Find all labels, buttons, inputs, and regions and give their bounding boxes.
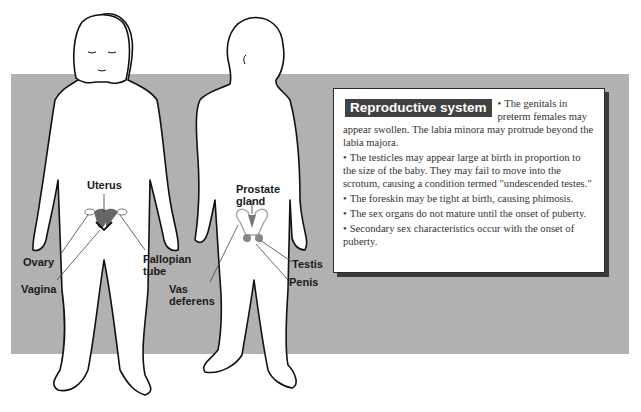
label-prostate-gland: Prostate gland xyxy=(236,183,280,207)
info-item: •The sex organs do not mature until the … xyxy=(343,207,596,220)
label-ovary: Ovary xyxy=(23,256,54,268)
info-item: •The testicles may appear large at birth… xyxy=(343,151,596,190)
label-penis: Penis xyxy=(289,276,318,288)
label-vagina: Vagina xyxy=(21,283,56,295)
female-child-figure xyxy=(33,14,179,395)
label-fallopian-tube: Fallopian tube xyxy=(143,253,191,277)
label-vas-deferens: Vas deferens xyxy=(169,283,215,307)
info-item: •The foreskin may be tight at birth, cau… xyxy=(343,192,596,205)
reproductive-system-info-box: Reproductive system •The genitals in pre… xyxy=(333,88,605,273)
info-box-title: Reproductive system xyxy=(345,99,492,117)
label-uterus: Uterus xyxy=(87,179,122,191)
label-testis: Testis xyxy=(292,258,323,270)
info-item: •Secondary sex characteristics occur wit… xyxy=(343,222,596,248)
